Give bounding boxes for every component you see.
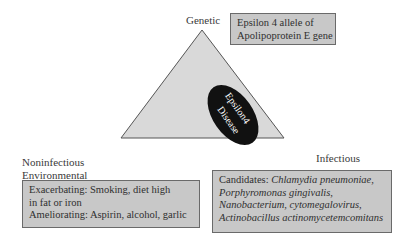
infectious-box-line2: Porphyromonas gingivalis,: [219, 187, 385, 200]
genetic-box-line1: Epsilon 4 allele of: [237, 17, 329, 30]
vertex-label-noninfectious-line1: Noninfectious: [22, 156, 87, 169]
infectious-box-line3-italic: Nanobacterium,: [219, 199, 287, 210]
infectious-box: Candidates: Chlamydia pneumoniae, Porphy…: [212, 170, 392, 233]
infectious-box-prefix: Candidates:: [219, 174, 271, 185]
genetic-box: Epsilon 4 allele of Apolipoprotein E gen…: [230, 13, 336, 45]
environmental-box-line3: Ameliorating: Aspirin, alcohol, garlic: [29, 209, 193, 222]
infectious-box-line3-normal: cytomegalovirus,: [287, 199, 362, 210]
infectious-box-line3: Nanobacterium, cytomegalovirus,: [219, 199, 385, 212]
infectious-box-line4-italic: Actinobacillus actinomycetemcomitans: [219, 212, 383, 223]
vertex-label-infectious: Infectious: [316, 152, 360, 165]
environmental-box-line1: Exacerbating: Smoking, diet high: [29, 184, 193, 197]
vertex-label-genetic: Genetic: [186, 14, 220, 27]
vertex-label-noninfectious: Noninfectious Environmental: [22, 156, 87, 182]
infectious-box-line1-italic: Chlamydia pneumoniae,: [271, 174, 374, 185]
infectious-box-line2-italic: Porphyromonas gingivalis,: [219, 187, 333, 198]
infectious-box-line4: Actinobacillus actinomycetemcomitans: [219, 212, 385, 225]
triangle: [121, 30, 284, 138]
environmental-box-line2: in fat or iron: [29, 197, 193, 210]
infectious-box-line1: Candidates: Chlamydia pneumoniae,: [219, 174, 385, 187]
genetic-box-line2: Apolipoprotein E gene: [237, 30, 329, 43]
environmental-box: Exacerbating: Smoking, diet high in fat …: [22, 180, 200, 228]
